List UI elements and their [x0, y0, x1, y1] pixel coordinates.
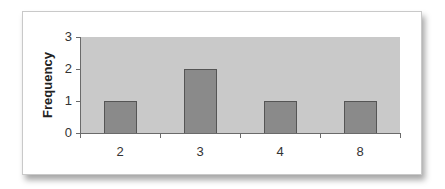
y-tick-label: 0 — [58, 126, 72, 140]
bar-3 — [184, 69, 217, 134]
x-tick-label: 2 — [100, 145, 140, 159]
bar-4 — [264, 101, 297, 134]
x-tick-mark — [160, 133, 161, 138]
y-tick-label: 2 — [58, 62, 72, 76]
bar-8 — [344, 101, 377, 134]
x-tick-mark — [240, 133, 241, 138]
y-tick-label: 3 — [58, 30, 72, 44]
x-tick-label: 4 — [260, 145, 300, 159]
x-tick-label: 3 — [180, 145, 220, 159]
bar-2 — [104, 101, 137, 134]
y-tick-label: 1 — [58, 94, 72, 108]
y-tick-mark — [76, 69, 81, 70]
y-tick-mark — [76, 101, 81, 102]
y-tick-mark — [76, 37, 81, 38]
x-tick-mark — [320, 133, 321, 138]
y-axis — [80, 37, 81, 134]
y-axis-title: Frequency — [40, 52, 55, 118]
x-tick-mark — [80, 133, 81, 138]
x-tick-mark — [400, 133, 401, 138]
x-tick-label: 8 — [340, 145, 380, 159]
